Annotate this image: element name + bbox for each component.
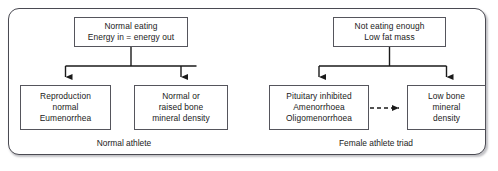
node-line: Low fat mass (364, 32, 414, 43)
node-not-eating-enough: Not eating enough Low fat mass (333, 17, 446, 47)
node-line: Not eating enough (355, 21, 425, 32)
node-line: mineral density (152, 113, 210, 124)
node-line: Eumenorrhea (40, 113, 92, 124)
node-line: Low bone (428, 91, 465, 102)
node-normal-or-raised-bone-mineral-density: Normal or raised bone mineral density (134, 85, 228, 130)
caption-normal-athlete: Normal athlete (64, 138, 184, 148)
node-low-bone-mineral-density: Low bone mineral density (407, 85, 486, 130)
node-line: Oligomenorrhoea (286, 113, 352, 124)
node-normal-eating: Normal eating Energy in = energy out (74, 17, 188, 47)
node-line: Normal or (162, 91, 200, 102)
node-reproduction-normal-eumenorrhea: Reproduction normal Eumenorrhea (20, 85, 111, 130)
node-line: Reproduction (40, 91, 91, 102)
node-line: Amenorrhoea (293, 102, 345, 113)
node-line: normal (52, 102, 78, 113)
caption-female-athlete-triad: Female athlete triad (316, 138, 436, 148)
node-pituitary-inhibited: Pituitary inhibited Amenorrhoea Oligomen… (269, 85, 369, 130)
node-line: Pituitary inhibited (286, 91, 351, 102)
diagram-root: Normal eating Energy in = energy out Rep… (0, 0, 498, 171)
node-line: Normal eating (104, 21, 157, 32)
node-line: mineral (432, 102, 460, 113)
node-line: Energy in = energy out (88, 32, 174, 43)
node-line: raised bone (159, 102, 204, 113)
node-line: density (433, 113, 460, 124)
